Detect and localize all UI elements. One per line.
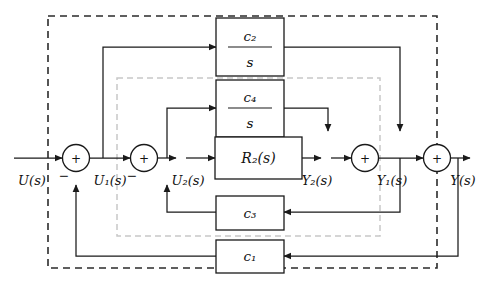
block-r2[interactable]: R₂(s) (215, 137, 302, 179)
summer-1-symbol: + (71, 152, 81, 166)
signal-label-u: U(s) (18, 173, 46, 188)
block-c2-over-s[interactable]: c₂ s (216, 18, 284, 76)
summing-junction-3[interactable]: + (352, 145, 379, 172)
signal-label-y: Y(s) (450, 173, 475, 188)
summer-3-symbol: + (360, 152, 370, 166)
signal-label-u1: U₁(s) (94, 173, 127, 188)
block-c1[interactable]: c₁ (216, 240, 284, 273)
signal-label-y1: Y₁(s) (377, 173, 408, 188)
signal-label-u2: U₂(s) (172, 173, 205, 188)
summer-2-minus-sign: − (127, 168, 137, 183)
block-c3-label: c₃ (244, 205, 257, 221)
summer-1-minus-sign: − (59, 168, 69, 183)
block-c4-over-s[interactable]: c₄ s (216, 80, 284, 137)
block-c2-numerator: c₂ (244, 28, 257, 44)
block-c3[interactable]: c₃ (216, 196, 284, 230)
block-c2-denominator: s (247, 54, 254, 70)
summer-4-symbol: + (432, 152, 442, 166)
block-c1-label: c₁ (244, 248, 257, 264)
summer-2-symbol: + (139, 152, 149, 166)
block-c4-denominator: s (247, 115, 254, 131)
signal-label-y2: Y₂(s) (302, 173, 333, 188)
block-r2-label: R₂(s) (240, 150, 275, 166)
block-c4-numerator: c₄ (244, 89, 257, 105)
summing-junction-4[interactable]: + (424, 145, 451, 172)
block-diagram-canvas: c₂ s c₄ s R₂(s) c₃ c₁ + − + − + + (0, 0, 482, 287)
